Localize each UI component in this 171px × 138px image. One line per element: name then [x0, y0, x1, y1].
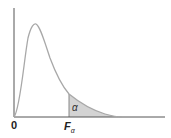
f-distribution-diagram: [0, 0, 171, 138]
critical-value-main: F: [64, 120, 71, 132]
density-curve: [14, 24, 122, 117]
origin-label: 0: [11, 119, 17, 131]
critical-value-subscript: α: [71, 127, 75, 134]
critical-value-label: Fα: [64, 120, 75, 134]
tail-area-label: α: [72, 102, 78, 113]
